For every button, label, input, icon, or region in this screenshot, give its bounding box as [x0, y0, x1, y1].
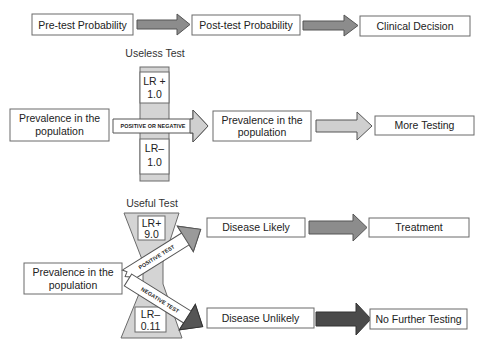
- prevalence-output-line1: Prevalence in the: [221, 114, 302, 126]
- prevalence-input-line1: Prevalence in the: [19, 112, 100, 124]
- prevalence-input-line1: Prevalence in the: [32, 266, 113, 278]
- arrow-right-icon: [303, 15, 358, 36]
- lr-positive-value: 1.0: [147, 88, 162, 100]
- lr-negative-value: 0.11: [141, 320, 161, 332]
- lr-positive-label: LR +: [143, 75, 165, 87]
- arrow-right-icon: [316, 303, 371, 335]
- arrow-right-icon: [137, 14, 190, 35]
- useful-test-section: Useful Test LR+ 9.0 LR– 0.11 Prevalence …: [24, 197, 469, 339]
- useful-test-title: Useful Test: [126, 197, 178, 209]
- top-flow: Pre-test Probability Post-test Probabili…: [32, 14, 470, 36]
- disease-likely-label: Disease Likely: [222, 221, 290, 233]
- lr-negative-value: 1.0: [147, 156, 162, 168]
- prevalence-output-line2: population: [238, 126, 287, 138]
- useless-test-title: Useless Test: [125, 47, 184, 59]
- pretest-probability-label: Pre-test Probability: [38, 19, 127, 31]
- arrow-right-icon: [309, 214, 367, 241]
- arrow-right-icon: [316, 112, 372, 140]
- prevalence-input-line2: population: [35, 125, 84, 137]
- clinical-decision-label: Clinical Decision: [376, 20, 453, 32]
- lr-negative-label: LR–: [141, 308, 160, 320]
- useless-test-section: Useless Test LR + 1.0 LR– 1.0 Prevalence…: [10, 47, 474, 181]
- posttest-probability-label: Post-test Probability: [199, 19, 293, 31]
- arrow-head-icon: [190, 110, 208, 142]
- diagnostic-test-diagram: Pre-test Probability Post-test Probabili…: [0, 0, 486, 344]
- treatment-label: Treatment: [395, 221, 443, 233]
- positive-or-negative-label: POSITIVE OR NEGATIVE: [120, 123, 185, 129]
- disease-unlikely-label: Disease Unlikely: [222, 312, 300, 324]
- lr-positive-value: 9.0: [144, 228, 159, 240]
- lr-negative-label: LR–: [145, 142, 164, 154]
- prevalence-input-line2: population: [49, 279, 98, 291]
- more-testing-label: More Testing: [395, 119, 455, 131]
- no-further-testing-label: No Further Testing: [375, 313, 461, 325]
